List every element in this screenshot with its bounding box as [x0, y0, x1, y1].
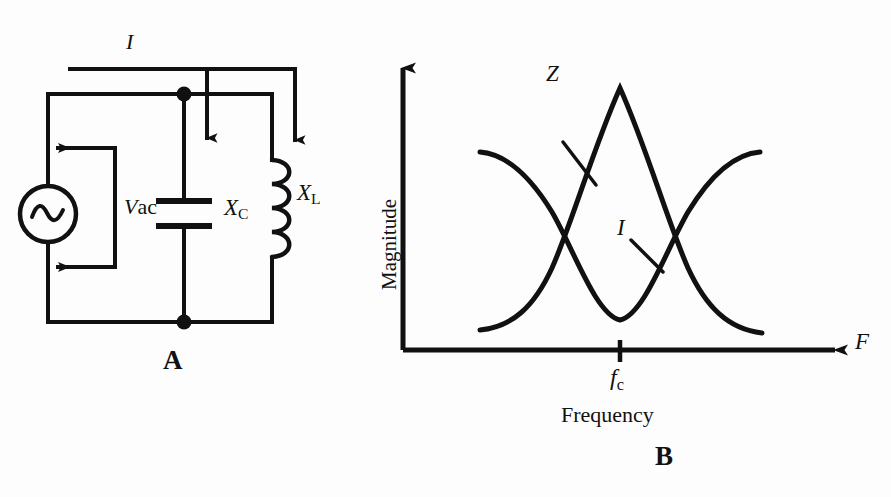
panel-b-letter: B	[655, 443, 674, 470]
capacitive-reactance-subscript: C	[238, 205, 248, 222]
source-voltage-suffix: ac	[137, 194, 157, 219]
capacitive-reactance-symbol: X	[224, 195, 238, 220]
inductive-reactance-label: XL	[297, 181, 321, 207]
capacitive-reactance-label: XC	[224, 196, 248, 222]
impedance-curve-label: Z	[546, 62, 559, 85]
figure-root: I Vac XC XL A Magnitude Z I F fc Frequen…	[0, 0, 891, 497]
source-voltage-label: Vac	[124, 196, 157, 218]
resonant-frequency-label: fc	[610, 365, 624, 393]
inductive-reactance-symbol: X	[297, 180, 311, 205]
x-axis-arrow-label: F	[855, 330, 869, 353]
total-current-label: I	[126, 31, 133, 53]
resonant-frequency-subscript: c	[617, 375, 624, 394]
impedance-curve-z	[480, 88, 762, 333]
panel-a-letter: A	[163, 347, 183, 374]
x-axis-title: Frequency	[561, 404, 654, 426]
inductive-reactance-subscript: L	[311, 190, 321, 207]
current-curve-label: I	[617, 216, 625, 239]
resonant-frequency-symbol: f	[610, 364, 617, 390]
i-label-leader-line	[631, 240, 663, 272]
panel-b-graph-svg	[0, 0, 891, 497]
source-voltage-symbol: V	[124, 194, 137, 219]
y-axis-title: Magnitude	[379, 199, 400, 290]
